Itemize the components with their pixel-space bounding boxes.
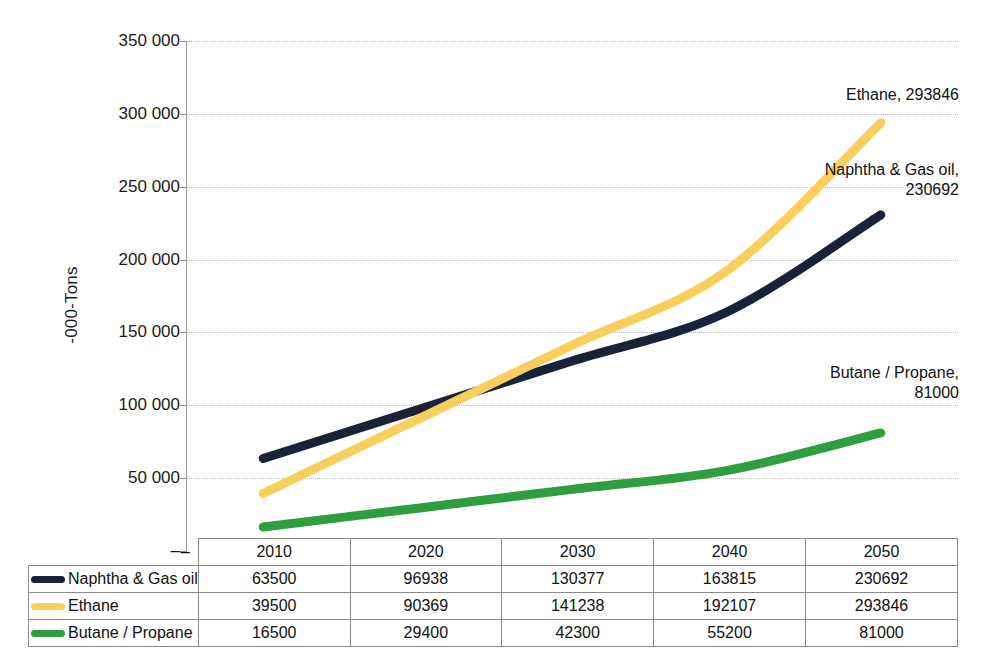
y-axis-tick-label: 100 000 (70, 396, 180, 413)
naphtha-end-label: Naphtha & Gas oil, 230692 (713, 160, 959, 200)
table-cell: 16500 (198, 620, 350, 647)
y-axis-tick-label: 200 000 (70, 251, 180, 268)
line-chart-figure: -000-Tons 350 000300 000250 000200 00015… (0, 0, 986, 665)
legend-label: Naphtha & Gas oil (68, 571, 198, 587)
legend-label: Ethane (68, 598, 119, 614)
y-axis-title: -000-Tons (62, 225, 82, 385)
y-axis-tick-label: 300 000 (70, 105, 180, 122)
table-col-header: 2050 (806, 539, 958, 566)
table-col-header: 2020 (350, 539, 502, 566)
series-line-naphtha-gas-oil (263, 215, 881, 459)
plot-area (186, 41, 958, 551)
table-cell: 141238 (502, 593, 654, 620)
legend-cell: Ethane (29, 593, 199, 620)
table-cell: 192107 (654, 593, 806, 620)
table-cell: 163815 (654, 566, 806, 593)
table-row: Ethane3950090369141238192107293846 (29, 593, 958, 620)
table-corner-dash: – (29, 539, 199, 566)
table-col-header: 2010 (198, 539, 350, 566)
table-cell: 230692 (806, 566, 958, 593)
legend-swatch-icon (31, 603, 65, 610)
table-cell: 90369 (350, 593, 502, 620)
data-table: – 2010 2020 2030 2040 2050 Naphtha & Gas… (28, 538, 958, 647)
table-body: Naphtha & Gas oil63500969381303771638152… (29, 566, 958, 647)
legend-swatch-icon (31, 630, 65, 637)
legend-swatch-icon (31, 576, 65, 583)
table-row: Naphtha & Gas oil63500969381303771638152… (29, 566, 958, 593)
table-col-header: 2030 (502, 539, 654, 566)
table-cell: 63500 (198, 566, 350, 593)
table-cell: 130377 (502, 566, 654, 593)
table-row: Butane / Propane165002940042300552008100… (29, 620, 958, 647)
y-axis-tick-label: 150 000 (70, 323, 180, 340)
table-cell: 293846 (806, 593, 958, 620)
table-cell: 39500 (198, 593, 350, 620)
ethane-end-label: Ethane, 293846 (713, 85, 959, 105)
y-axis-tick-label: 350 000 (70, 32, 180, 49)
table-header-row: – 2010 2020 2030 2040 2050 (29, 539, 958, 566)
table-cell: 55200 (654, 620, 806, 647)
legend-label: Butane / Propane (68, 625, 193, 641)
table-cell: 96938 (350, 566, 502, 593)
table-cell: 42300 (502, 620, 654, 647)
y-axis-tick-label: 50 000 (70, 469, 180, 486)
legend-cell: Naphtha & Gas oil (29, 566, 199, 593)
y-axis-tick-label: 250 000 (70, 178, 180, 195)
table-cell: 81000 (806, 620, 958, 647)
table-col-header: 2040 (654, 539, 806, 566)
table-cell: 29400 (350, 620, 502, 647)
butane-end-label: Butane / Propane, 81000 (713, 363, 959, 403)
legend-cell: Butane / Propane (29, 620, 199, 647)
